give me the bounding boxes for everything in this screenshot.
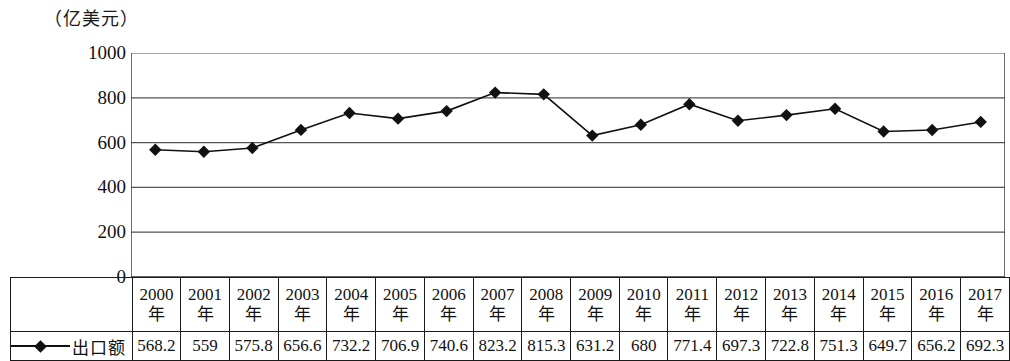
year-suffix: 年: [474, 305, 522, 324]
plot-area: 2000年: 568.22001年: 5592002年: 575.82003年:…: [131, 53, 1005, 277]
year-number: 2012: [717, 285, 765, 304]
table-cell-value-2011: 771.4: [668, 332, 717, 361]
table-cell-year-2011: 2011年: [668, 278, 717, 332]
legend-diamond-icon: [34, 340, 47, 353]
year-number: 2002: [230, 285, 278, 304]
year-number: 2000: [133, 285, 181, 304]
table-row-values: 出口额 568.2559575.8656.6732.2706.9740.6823…: [11, 332, 1010, 361]
year-number: 2010: [620, 285, 667, 304]
data-point-marker-2011年: 2011年: 771.4: [683, 98, 695, 110]
year-number: 2001: [181, 285, 228, 304]
table-cell-year-2013: 2013年: [766, 278, 815, 332]
gridlines: [131, 53, 1005, 232]
year-number: 2006: [425, 285, 473, 304]
table-cell-value-2012: 697.3: [717, 332, 766, 361]
y-axis-tick-400: 400: [26, 177, 126, 196]
data-point-marker-2016年: 2016年: 656.2: [926, 124, 938, 136]
year-suffix: 年: [571, 305, 619, 324]
year-suffix: 年: [864, 305, 912, 324]
year-suffix: 年: [668, 305, 716, 324]
data-point-marker-2013年: 2013年: 722.8: [780, 109, 792, 121]
table-cell-value-2003: 656.6: [278, 332, 327, 361]
data-point-marker-2004年: 2004年: 732.2: [343, 107, 355, 119]
table-cell-value-2000: 568.2: [132, 332, 181, 361]
table-cell-year-2009: 2009年: [571, 278, 620, 332]
table-cell-value-2005: 706.9: [376, 332, 425, 361]
data-point-marker-2001年: 2001年: 559: [198, 146, 210, 158]
year-number: 2009: [571, 285, 619, 304]
year-number: 2008: [522, 285, 570, 304]
year-suffix: 年: [961, 305, 1009, 324]
table-cell-year-2004: 2004年: [327, 278, 376, 332]
table-cell-year-2006: 2006年: [424, 278, 473, 332]
y-axis-tick-600: 600: [26, 133, 126, 152]
year-suffix: 年: [766, 305, 814, 324]
year-number: 2005: [376, 285, 424, 304]
table-cell-value-2009: 631.2: [571, 332, 620, 361]
year-number: 2016: [912, 285, 960, 304]
year-number: 2007: [474, 285, 522, 304]
table-corner-blank: [11, 278, 133, 332]
plot-frame: [131, 53, 1005, 277]
legend-cell: 出口额: [11, 332, 133, 361]
table-cell-year-2010: 2010年: [620, 278, 668, 332]
data-point-marker-2010年: 2010年: 680: [635, 118, 647, 130]
year-suffix: 年: [133, 305, 181, 324]
year-suffix: 年: [376, 305, 424, 324]
data-point-marker-2000年: 2000年: 568.2: [149, 144, 161, 156]
year-suffix: 年: [620, 305, 667, 324]
year-number: 2011: [668, 285, 716, 304]
year-suffix: 年: [522, 305, 570, 324]
year-suffix: 年: [815, 305, 863, 324]
year-number: 2014: [815, 285, 863, 304]
table-cell-value-2007: 823.2: [473, 332, 522, 361]
year-suffix: 年: [230, 305, 278, 324]
year-number: 2017: [961, 285, 1009, 304]
y-axis-tick-800: 800: [26, 88, 126, 107]
table-cell-year-2002: 2002年: [229, 278, 278, 332]
data-point-marker-2005年: 2005年: 706.9: [392, 112, 404, 124]
data-point-marker-2003年: 2003年: 656.6: [295, 124, 307, 136]
year-suffix: 年: [912, 305, 960, 324]
year-suffix: 年: [717, 305, 765, 324]
table-cell-value-2015: 649.7: [863, 332, 912, 361]
line-chart-svg: 2000年: 568.22001年: 5592002年: 575.82003年:…: [131, 53, 1005, 277]
table-cell-year-2003: 2003年: [278, 278, 327, 332]
y-axis-tick-1000: 1000: [26, 43, 126, 62]
year-number: 2013: [766, 285, 814, 304]
table-cell-value-2010: 680: [620, 332, 668, 361]
table-cell-value-2006: 740.6: [424, 332, 473, 361]
table-cell-year-2008: 2008年: [522, 278, 571, 332]
table-cell-value-2001: 559: [181, 332, 229, 361]
series-markers-export-value: 2000年: 568.22001年: 5592002年: 575.82003年:…: [149, 86, 987, 158]
table-cell-year-2005: 2005年: [376, 278, 425, 332]
table-cell-value-2002: 575.8: [229, 332, 278, 361]
year-suffix: 年: [327, 305, 375, 324]
table-cell-value-2016: 656.2: [912, 332, 961, 361]
year-number: 2015: [864, 285, 912, 304]
data-point-marker-2015年: 2015年: 649.7: [877, 125, 889, 137]
legend-line-icon: [44, 345, 70, 347]
year-suffix: 年: [181, 305, 228, 324]
data-point-marker-2007年: 2007年: 823.2: [489, 86, 501, 98]
table-cell-value-2008: 815.3: [522, 332, 571, 361]
data-point-marker-2012年: 2012年: 697.3: [732, 115, 744, 127]
table-cell-value-2004: 732.2: [327, 332, 376, 361]
table-cell-year-2012: 2012年: [717, 278, 766, 332]
y-axis-tick-200: 200: [26, 222, 126, 241]
year-number: 2004: [327, 285, 375, 304]
table-cell-year-2001: 2001年: [181, 278, 229, 332]
legend-label: 出口额: [72, 334, 126, 359]
table-cell-year-2007: 2007年: [473, 278, 522, 332]
table-cell-year-2000: 2000年: [132, 278, 181, 332]
year-suffix: 年: [425, 305, 473, 324]
data-point-marker-2002年: 2002年: 575.8: [246, 142, 258, 154]
year-number: 2003: [279, 285, 327, 304]
data-point-marker-2017年: 2017年: 692.3: [975, 116, 987, 128]
table-cell-value-2013: 722.8: [766, 332, 815, 361]
table-cell-year-2015: 2015年: [863, 278, 912, 332]
data-table: 2000年2001年2002年2003年2004年2005年2006年2007年…: [10, 277, 1010, 361]
table-row-years: 2000年2001年2002年2003年2004年2005年2006年2007年…: [11, 278, 1010, 332]
table-cell-year-2016: 2016年: [912, 278, 961, 332]
